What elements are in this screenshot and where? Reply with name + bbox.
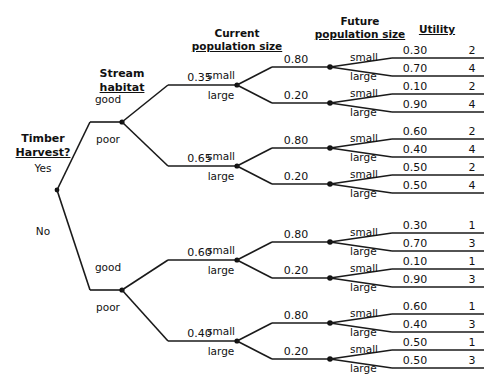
current-population-header-line2: population size [192, 41, 282, 52]
habitat-branch-yes-poor [122, 122, 168, 166]
future-size-label-yes-poor-small-small: small [350, 133, 378, 144]
future-size-label-no-poor-large-small: small [350, 344, 378, 355]
utility-value-no-good-large-small: 1 [463, 256, 481, 267]
current-size-label-yes-good-small: small [207, 70, 235, 81]
future-population-header-line2: population size [315, 29, 405, 40]
stream-habitat-header-line1: Stream [100, 68, 145, 79]
current-size-label-yes-poor-small: small [207, 151, 235, 162]
utility-value-no-poor-large-large: 3 [463, 355, 481, 366]
habitat-state-label-no-good: good [95, 262, 121, 273]
current-branch-yes-poor-small [237, 148, 272, 166]
current-prob-yes-good-large: 0.20 [284, 90, 309, 101]
utility-value-no-poor-large-small: 1 [463, 337, 481, 348]
current-size-label-yes-good-large: large [208, 90, 235, 101]
future-prob-no-poor-small-small: 0.60 [403, 301, 428, 312]
current-size-label-no-good-small: small [207, 245, 235, 256]
utility-value-no-good-small-large: 3 [463, 238, 481, 249]
current-prob-no-good-small: 0.80 [284, 229, 309, 240]
future-prob-no-good-large-small: 0.10 [403, 256, 428, 267]
utility-value-yes-good-large-small: 2 [463, 81, 481, 92]
future-size-label-yes-poor-large-large: large [350, 188, 377, 199]
utility-value-no-poor-small-large: 3 [463, 319, 481, 330]
future-population-header-line1: Future [341, 16, 380, 27]
utility-header: Utility [419, 24, 455, 35]
current-size-label-yes-poor-large: large [208, 171, 235, 182]
future-prob-yes-poor-small-small: 0.60 [403, 126, 428, 137]
current-prob-yes-poor-large: 0.20 [284, 171, 309, 182]
future-prob-yes-poor-large-large: 0.50 [403, 180, 428, 191]
habitat-state-label-yes-poor: poor [96, 134, 120, 145]
future-size-label-no-good-small-large: large [350, 246, 377, 257]
future-size-label-yes-good-large-large: large [350, 107, 377, 118]
utility-value-yes-good-small-small: 2 [463, 45, 481, 56]
future-size-label-no-poor-large-large: large [350, 363, 377, 374]
habitat-branch-no-good [122, 260, 168, 290]
root-arm-no [57, 190, 90, 290]
future-size-label-yes-poor-small-large: large [350, 152, 377, 163]
utility-value-yes-good-small-large: 4 [463, 63, 481, 74]
current-branch-no-poor-large [237, 341, 272, 359]
future-prob-yes-good-large-small: 0.10 [403, 81, 428, 92]
utility-value-yes-poor-small-small: 2 [463, 126, 481, 137]
decision-header-line1: Timber [21, 133, 65, 144]
future-size-label-no-poor-small-small: small [350, 308, 378, 319]
future-prob-yes-good-large-large: 0.90 [403, 99, 428, 110]
decision-option-label-no: No [36, 226, 50, 237]
current-prob-no-poor-large: 0.20 [284, 346, 309, 357]
future-size-label-yes-good-small-large: large [350, 71, 377, 82]
current-branch-no-good-small [237, 242, 272, 260]
future-size-label-yes-good-small-small: small [350, 52, 378, 63]
utility-value-yes-good-large-large: 4 [463, 99, 481, 110]
current-branch-no-good-large [237, 260, 272, 278]
future-prob-no-poor-large-large: 0.50 [403, 355, 428, 366]
future-size-label-no-good-large-small: small [350, 263, 378, 274]
current-size-label-no-poor-small: small [207, 326, 235, 337]
future-prob-no-good-large-large: 0.90 [403, 274, 428, 285]
stream-habitat-header-line2: habitat [100, 82, 145, 93]
future-prob-yes-good-small-small: 0.30 [403, 45, 428, 56]
utility-value-yes-poor-large-large: 4 [463, 180, 481, 191]
current-branch-no-poor-small [237, 323, 272, 341]
habitat-branch-no-poor [122, 290, 168, 341]
current-prob-no-poor-small: 0.80 [284, 310, 309, 321]
utility-value-yes-poor-small-large: 4 [463, 144, 481, 155]
current-size-label-no-good-large: large [208, 265, 235, 276]
current-branch-yes-good-large [237, 85, 272, 103]
future-size-label-no-poor-small-large: large [350, 327, 377, 338]
future-prob-yes-good-small-large: 0.70 [403, 63, 428, 74]
current-prob-no-good-large: 0.20 [284, 265, 309, 276]
utility-value-yes-poor-large-small: 2 [463, 162, 481, 173]
current-branch-yes-good-small [237, 67, 272, 85]
future-prob-no-good-small-large: 0.70 [403, 238, 428, 249]
future-prob-no-poor-small-large: 0.40 [403, 319, 428, 330]
current-population-header-line1: Current [214, 28, 259, 39]
future-size-label-yes-poor-large-small: small [350, 169, 378, 180]
future-prob-no-poor-large-small: 0.50 [403, 337, 428, 348]
utility-value-no-good-small-small: 1 [463, 220, 481, 231]
future-size-label-yes-good-large-small: small [350, 88, 378, 99]
future-prob-no-good-small-small: 0.30 [403, 220, 428, 231]
decision-option-label-yes: Yes [35, 163, 52, 174]
future-size-label-no-good-small-small: small [350, 227, 378, 238]
future-prob-yes-poor-small-large: 0.40 [403, 144, 428, 155]
decision-header-line2: Harvest? [16, 147, 71, 158]
habitat-state-label-no-poor: poor [96, 302, 120, 313]
utility-value-no-poor-small-small: 1 [463, 301, 481, 312]
current-prob-yes-good-small: 0.80 [284, 54, 309, 65]
current-size-label-no-poor-large: large [208, 346, 235, 357]
current-branch-yes-poor-large [237, 166, 272, 184]
decision-tree-diagram: TimberHarvest?StreamhabitatCurrentpopula… [0, 0, 488, 387]
utility-value-no-good-large-large: 3 [463, 274, 481, 285]
future-prob-yes-poor-large-small: 0.50 [403, 162, 428, 173]
future-size-label-no-good-large-large: large [350, 282, 377, 293]
current-prob-yes-poor-small: 0.80 [284, 135, 309, 146]
habitat-state-label-yes-good: good [95, 94, 121, 105]
